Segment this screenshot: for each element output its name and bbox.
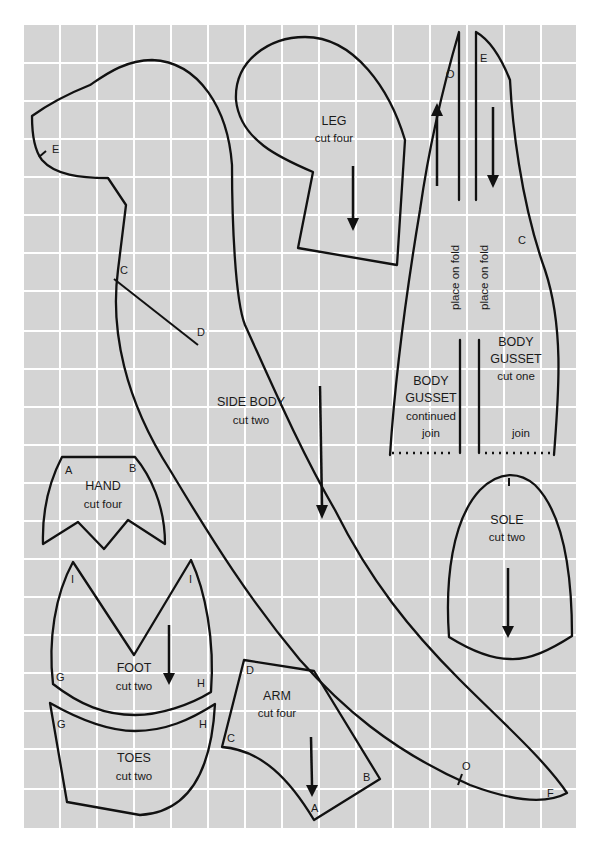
join-label: join bbox=[421, 427, 440, 439]
arm-instruction: cut four bbox=[258, 707, 297, 719]
join-label: join bbox=[511, 427, 530, 439]
pattern-sheet: E C D O F SIDE BODY cut two LEG cut four… bbox=[0, 0, 599, 851]
hand-title: HAND bbox=[85, 479, 120, 493]
point-f: F bbox=[547, 787, 554, 799]
point-a: A bbox=[65, 464, 73, 476]
hand-instruction: cut four bbox=[84, 498, 123, 510]
gusset-continued-title-1: BODY bbox=[413, 374, 449, 388]
leg-instruction: cut four bbox=[315, 132, 354, 144]
gusset-continued-instruction: continued bbox=[406, 410, 456, 422]
point-a: A bbox=[311, 802, 319, 814]
point-o: O bbox=[446, 68, 455, 80]
point-e: E bbox=[480, 52, 487, 64]
point-o: O bbox=[462, 760, 471, 772]
gusset-instruction: cut one bbox=[497, 370, 535, 382]
side-body-instruction: cut two bbox=[233, 414, 269, 426]
point-c: C bbox=[227, 732, 235, 744]
point-c: C bbox=[518, 234, 526, 246]
sole-instruction: cut two bbox=[489, 531, 525, 543]
point-i-right: I bbox=[189, 573, 192, 585]
fold-label: place on fold bbox=[449, 245, 461, 310]
point-h: H bbox=[199, 718, 207, 730]
toes-title: TOES bbox=[117, 751, 151, 765]
point-b: B bbox=[363, 771, 370, 783]
foot-title: FOOT bbox=[117, 661, 152, 675]
toes-instruction: cut two bbox=[116, 770, 152, 782]
point-c: C bbox=[120, 264, 128, 276]
point-e: E bbox=[52, 143, 59, 155]
arm-title: ARM bbox=[263, 689, 291, 703]
point-d: D bbox=[246, 664, 254, 676]
foot-instruction: cut two bbox=[116, 680, 152, 692]
point-d: D bbox=[197, 326, 205, 338]
gusset-title-1: BODY bbox=[498, 335, 534, 349]
point-b: B bbox=[129, 462, 136, 474]
point-g: G bbox=[57, 718, 66, 730]
gusset-title-2: GUSSET bbox=[490, 352, 542, 366]
point-h: H bbox=[197, 677, 205, 689]
sole-title: SOLE bbox=[490, 513, 523, 527]
fold-label: place on fold bbox=[478, 245, 490, 310]
side-body-title: SIDE BODY bbox=[217, 395, 286, 409]
point-i-left: I bbox=[71, 573, 74, 585]
point-g: G bbox=[56, 671, 65, 683]
leg-title: LEG bbox=[321, 114, 346, 128]
gusset-continued-title-2: GUSSET bbox=[405, 391, 457, 405]
